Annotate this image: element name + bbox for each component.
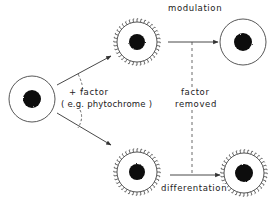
nucleus [129,34,145,50]
nucleus [129,164,145,180]
label-modulation: modulation [168,4,222,13]
induced-cell-bottom [114,149,160,195]
label-differentiation: differentation [161,184,227,193]
label-plus-factor: + factor [69,88,109,97]
nucleus [23,90,41,108]
modulated-cell [220,19,266,65]
label-factor-example: ( e.g. phytochrome ) [61,100,152,109]
label-factor: factor [181,88,210,97]
nucleus [235,164,253,182]
arrow-upper-diagonal [57,56,111,85]
arrow-lower-diagonal [57,113,111,145]
initial-cell [9,76,55,122]
nucleus [234,33,252,51]
label-removed: removed [175,100,217,109]
differentiated-cell [221,150,267,196]
induced-cell-top [114,19,160,65]
